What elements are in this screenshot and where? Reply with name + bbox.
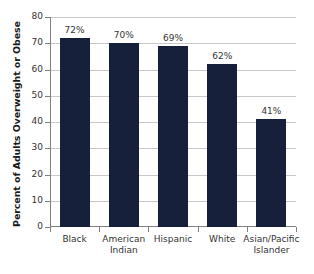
bar[interactable] (60, 38, 90, 227)
x-axis-tick-mark (247, 227, 248, 232)
bar[interactable] (207, 64, 237, 227)
bar-slot: 72% (50, 17, 99, 227)
y-axis-tick-label: 30 (0, 143, 43, 152)
x-axis-tick-mark (99, 227, 100, 232)
bar-slot: 69% (148, 17, 197, 227)
y-axis-tick-label: 0 (0, 222, 43, 231)
x-axis-tick-mark (148, 227, 149, 232)
x-axis-label: Asian/PacificIslander (241, 234, 302, 256)
y-axis-tick-label: 60 (0, 65, 43, 74)
bar-chart: Percent of Adults Overweight or Obese 80… (0, 0, 314, 274)
y-axis-tick-label: 70 (0, 38, 43, 47)
x-axis-tick-mark (50, 227, 51, 232)
bar-slot: 70% (99, 17, 148, 227)
bars-layer: 72%70%69%62%41% (50, 17, 296, 227)
bar-value-label: 41% (261, 106, 281, 116)
x-axis-label-line: Islander (241, 245, 302, 256)
y-axis-tick-label: 80 (0, 12, 43, 21)
y-axis-tick-label: 10 (0, 196, 43, 205)
y-axis-tick-label: 20 (0, 170, 43, 179)
x-axis-tick-mark (198, 227, 199, 232)
bar-slot: 62% (198, 17, 247, 227)
x-axis-label-line: Indian (93, 245, 154, 256)
bar[interactable] (158, 46, 188, 227)
x-axis-tick-mark (296, 227, 297, 232)
bar[interactable] (256, 119, 286, 227)
y-axis-tick-label: 50 (0, 91, 43, 100)
y-axis-tick-label: 40 (0, 117, 43, 126)
bar[interactable] (109, 43, 139, 227)
bar-value-label: 70% (114, 30, 134, 40)
bar-value-label: 72% (65, 25, 85, 35)
x-axis-label-line: Asian/Pacific (241, 234, 302, 245)
bar-slot: 41% (247, 17, 296, 227)
bar-value-label: 62% (212, 51, 232, 61)
bar-value-label: 69% (163, 33, 183, 43)
